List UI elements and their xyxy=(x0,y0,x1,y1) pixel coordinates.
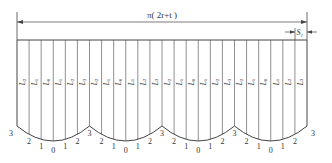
column-label: L1 xyxy=(175,78,184,86)
column-label: L2 xyxy=(18,78,27,86)
column-label: L3 xyxy=(151,78,160,86)
column-label: L1 xyxy=(247,78,256,86)
column-label: L3 xyxy=(78,78,87,86)
gap-label-subscript: 1 xyxy=(301,33,304,38)
column-label: L0 xyxy=(114,78,123,86)
column-label-subscript: 1 xyxy=(251,78,256,81)
column-label-subscript: 1 xyxy=(34,78,39,81)
column-label: L2 xyxy=(211,78,220,86)
point-number: 1 xyxy=(184,142,188,151)
column-label: L1 xyxy=(127,78,136,86)
column-label: L2 xyxy=(163,78,172,86)
point-number: 2 xyxy=(293,137,297,146)
column-label-subscript: 2 xyxy=(94,78,99,81)
column-label-subscript: 2 xyxy=(22,78,27,81)
column-label: L0 xyxy=(259,78,268,86)
column-label-subscript: 3 xyxy=(300,78,305,81)
column-label-subscript: 2 xyxy=(167,78,172,81)
column-label-subscript: 0 xyxy=(118,78,123,81)
dimension-annotations: π( 2r+t )S1 xyxy=(17,10,317,40)
point-number: 1 xyxy=(136,142,140,151)
column-label: L2 xyxy=(90,78,99,86)
point-number: 0 xyxy=(196,146,200,155)
point-number: 3 xyxy=(311,129,315,138)
column-label-subscript: 1 xyxy=(203,78,208,81)
point-number: 2 xyxy=(27,137,31,146)
point-number: 2 xyxy=(148,137,152,146)
point-number: 2 xyxy=(172,137,176,146)
arrow-right-icon xyxy=(301,20,307,24)
gap-label: S1 xyxy=(297,28,304,38)
column-label: L2 xyxy=(284,78,293,86)
column-labels: L2L1L0L1L2L3L2L1L0L1L2L3L2L1L0L1L2L3L2L1… xyxy=(18,78,305,86)
column-label-subscript: 1 xyxy=(275,78,280,81)
point-number: 2 xyxy=(75,137,79,146)
column-label-subscript: 1 xyxy=(179,78,184,81)
column-label: L3 xyxy=(296,78,305,86)
column-label-subscript: 1 xyxy=(58,78,63,81)
column-label-subscript: 2 xyxy=(215,78,220,81)
column-label: L0 xyxy=(42,78,51,86)
point-number: 0 xyxy=(51,146,55,155)
column-label: L0 xyxy=(187,78,196,86)
column-label-subscript: 1 xyxy=(130,78,135,81)
column-label-subscript: 3 xyxy=(155,78,160,81)
point-number: 1 xyxy=(39,142,43,151)
arrow-left-icon xyxy=(17,20,23,24)
bottom-numbers: 3210123210123210123210123 xyxy=(9,129,315,155)
column-label-subscript: 2 xyxy=(288,78,293,81)
column-label-subscript: 3 xyxy=(227,78,232,81)
gap-arrow-left-icon xyxy=(290,30,295,34)
column-label: L2 xyxy=(139,78,148,86)
point-number: 3 xyxy=(233,129,237,138)
blank-outline xyxy=(17,40,307,141)
column-label-subscript: 0 xyxy=(46,78,51,81)
point-number: 3 xyxy=(9,129,13,138)
column-label: L1 xyxy=(199,78,208,86)
gap-arrow-right-icon xyxy=(307,30,312,34)
point-number: 0 xyxy=(124,146,128,155)
column-label-subscript: 0 xyxy=(191,78,196,81)
point-number: 1 xyxy=(281,142,285,151)
column-label-subscript: 1 xyxy=(106,78,111,81)
column-label-subscript: 3 xyxy=(82,78,87,81)
column-label: L3 xyxy=(223,78,232,86)
column-label-subscript: 2 xyxy=(143,78,148,81)
column-label: L2 xyxy=(235,78,244,86)
column-label: L1 xyxy=(272,78,281,86)
point-number: 2 xyxy=(220,137,224,146)
development-diagram: π( 2r+t )S1 L2L1L0L1L2L3L2L1L0L1L2L3L2L1… xyxy=(0,0,332,163)
point-number: 1 xyxy=(112,142,116,151)
point-number: 2 xyxy=(100,137,104,146)
point-number: 3 xyxy=(88,129,92,138)
column-label-subscript: 2 xyxy=(239,78,244,81)
point-number: 1 xyxy=(208,142,212,151)
point-number: 2 xyxy=(245,137,249,146)
point-number: 1 xyxy=(257,142,261,151)
column-label-subscript: 2 xyxy=(70,78,75,81)
point-number: 0 xyxy=(269,146,273,155)
column-label: L1 xyxy=(102,78,111,86)
column-label: L2 xyxy=(66,78,75,86)
column-label: L1 xyxy=(54,78,63,86)
column-label-subscript: 0 xyxy=(263,78,268,81)
column-label: L1 xyxy=(30,78,39,86)
point-number: 1 xyxy=(63,142,67,151)
total-length-label: π( 2r+t ) xyxy=(147,10,177,20)
point-number: 3 xyxy=(160,129,164,138)
